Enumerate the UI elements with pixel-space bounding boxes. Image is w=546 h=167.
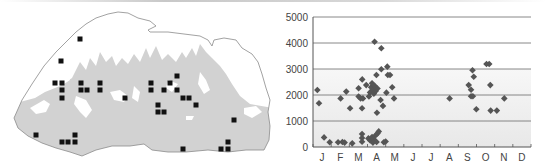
x-tick-label: M (354, 152, 362, 163)
site-marker (149, 88, 154, 93)
x-tick-label: N (500, 152, 507, 163)
distribution-map (0, 0, 273, 167)
site-marker (219, 147, 224, 152)
y-tick-label: 4000 (286, 38, 309, 49)
site-marker (34, 133, 39, 138)
x-tick-label: M (391, 152, 399, 163)
site-marker (73, 140, 78, 145)
site-marker (79, 88, 84, 93)
site-marker (181, 147, 186, 152)
shaded-band (313, 69, 531, 147)
site-marker (78, 37, 83, 42)
site-marker (60, 81, 65, 86)
site-marker (187, 96, 192, 101)
site-marker (60, 88, 65, 93)
site-marker (156, 103, 161, 108)
x-tick-label: D (518, 152, 525, 163)
site-marker (226, 147, 231, 152)
x-tick-label: J (429, 152, 434, 163)
site-marker (168, 81, 173, 86)
site-marker (85, 88, 90, 93)
x-tick-label: A (373, 152, 380, 163)
site-marker (53, 81, 58, 86)
site-marker (194, 103, 199, 108)
site-marker (59, 59, 64, 64)
site-marker (149, 81, 154, 86)
site-marker (66, 140, 71, 145)
altitude-by-month-chart: 010002000300040005000 JFMAMJJASOND (273, 0, 546, 167)
y-axis-labels: 010002000300040005000 (286, 12, 309, 153)
x-tick-label: J (320, 152, 325, 163)
elevation-shading (0, 0, 273, 167)
site-marker (98, 81, 103, 86)
site-marker (162, 110, 167, 115)
site-marker (98, 88, 103, 93)
site-marker (181, 96, 186, 101)
site-marker (123, 96, 128, 101)
site-marker (73, 133, 78, 138)
y-tick-label: 0 (302, 142, 308, 153)
y-tick-label: 1000 (286, 116, 309, 127)
site-marker (226, 140, 231, 145)
site-marker (232, 118, 237, 123)
site-marker (60, 140, 65, 145)
site-marker (156, 110, 161, 115)
map-canvas (0, 0, 273, 167)
data-point (371, 38, 378, 45)
x-tick-label: S (464, 152, 471, 163)
x-axis-labels: JFMAMJJASOND (320, 152, 526, 163)
site-marker (162, 88, 167, 93)
site-marker (175, 74, 180, 79)
y-tick-label: 5000 (286, 12, 309, 23)
site-marker (175, 88, 180, 93)
y-tick-label: 2000 (286, 90, 309, 101)
data-point (378, 45, 385, 52)
x-tick-label: A (446, 152, 453, 163)
y-tick-label: 3000 (286, 64, 309, 75)
site-marker (60, 96, 65, 101)
x-tick-label: J (410, 152, 415, 163)
site-marker (79, 81, 84, 86)
x-tick-label: F (337, 152, 343, 163)
x-tick-label: O (482, 152, 490, 163)
chart-canvas: 010002000300040005000 JFMAMJJASOND (273, 0, 546, 167)
